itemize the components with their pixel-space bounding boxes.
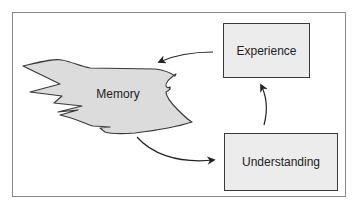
memory-label: Memory	[90, 87, 146, 101]
arrow-understanding-to-experience	[261, 85, 266, 125]
understanding-label: Understanding	[242, 155, 320, 169]
understanding-node: Understanding	[224, 133, 338, 191]
experience-node: Experience	[223, 23, 310, 78]
arrow-memory-to-understanding	[137, 137, 214, 161]
arrow-experience-to-memory	[159, 52, 213, 62]
experience-label: Experience	[236, 44, 296, 58]
